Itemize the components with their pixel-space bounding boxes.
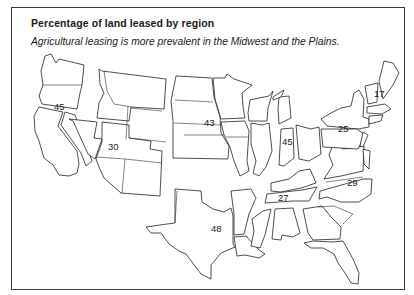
label-southeast: 27	[278, 192, 289, 203]
label-northeast: 25	[338, 123, 349, 134]
label-mountain: 30	[108, 141, 119, 152]
region-mountain	[69, 69, 166, 196]
us-region-map	[1, 1, 414, 295]
label-appalachia: 29	[347, 177, 358, 188]
region-pacific	[34, 54, 92, 176]
region-southeast	[272, 206, 359, 284]
label-corn-belt: 45	[282, 136, 293, 147]
region-lake-states	[213, 74, 291, 124]
region-appalachia-west	[265, 169, 317, 203]
label-new-england: 17	[374, 88, 385, 99]
label-northern-plains: 43	[204, 117, 215, 128]
figure-frame: Percentage of land leased by region Agri…	[11, 7, 405, 290]
region-southern-plains	[146, 189, 235, 279]
label-pacific: 45	[54, 101, 65, 112]
region-corn-belt	[221, 121, 321, 176]
label-southern-plains: 48	[211, 223, 222, 234]
region-delta	[231, 189, 271, 258]
